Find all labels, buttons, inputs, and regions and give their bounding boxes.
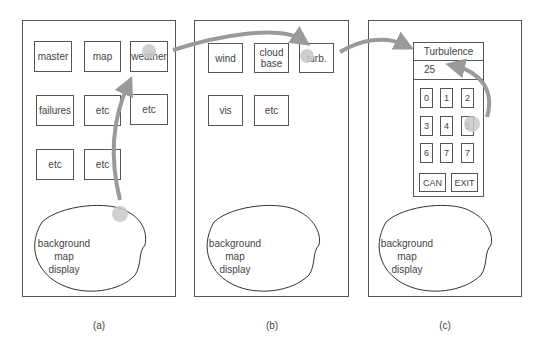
key-7[interactable]: 7 xyxy=(440,143,453,163)
turb-button[interactable]: turb. xyxy=(299,43,334,73)
failures-button[interactable]: failures xyxy=(36,95,74,126)
background-map-label: background map display xyxy=(367,237,447,276)
background-map-label: background map display xyxy=(24,237,104,276)
key-4[interactable]: 4 xyxy=(440,116,453,136)
caption-c: (c) xyxy=(425,320,465,331)
etc-button[interactable]: etc xyxy=(84,95,121,126)
etc-button[interactable]: etc xyxy=(254,95,289,126)
key-7b[interactable]: 7 xyxy=(461,143,474,163)
cloud-base-button[interactable]: cloud base xyxy=(254,43,289,73)
vis-button[interactable]: vis xyxy=(208,95,243,126)
key-2[interactable]: 2 xyxy=(461,88,474,108)
exit-button[interactable]: EXIT xyxy=(451,173,478,192)
cancel-button[interactable]: CAN xyxy=(419,173,446,192)
dialog-title: Turbulence xyxy=(414,43,483,61)
key-6[interactable]: 6 xyxy=(420,143,433,163)
etc-button[interactable]: etc xyxy=(36,149,74,180)
weather-button[interactable]: weather xyxy=(130,41,168,72)
key-0[interactable]: 0 xyxy=(420,88,433,108)
wind-button[interactable]: wind xyxy=(208,43,243,73)
caption-a: (a) xyxy=(79,320,119,331)
key-5[interactable]: 5 xyxy=(461,116,474,136)
key-1[interactable]: 1 xyxy=(440,88,453,108)
etc-button[interactable]: etc xyxy=(130,94,168,125)
etc-button[interactable]: etc xyxy=(84,149,121,180)
background-map-label: background map display xyxy=(195,237,275,276)
key-3[interactable]: 3 xyxy=(420,116,433,136)
map-button[interactable]: map xyxy=(84,41,121,72)
caption-b: (b) xyxy=(252,320,292,331)
value-display[interactable]: 25 xyxy=(414,60,483,80)
master-button[interactable]: master xyxy=(34,41,72,72)
